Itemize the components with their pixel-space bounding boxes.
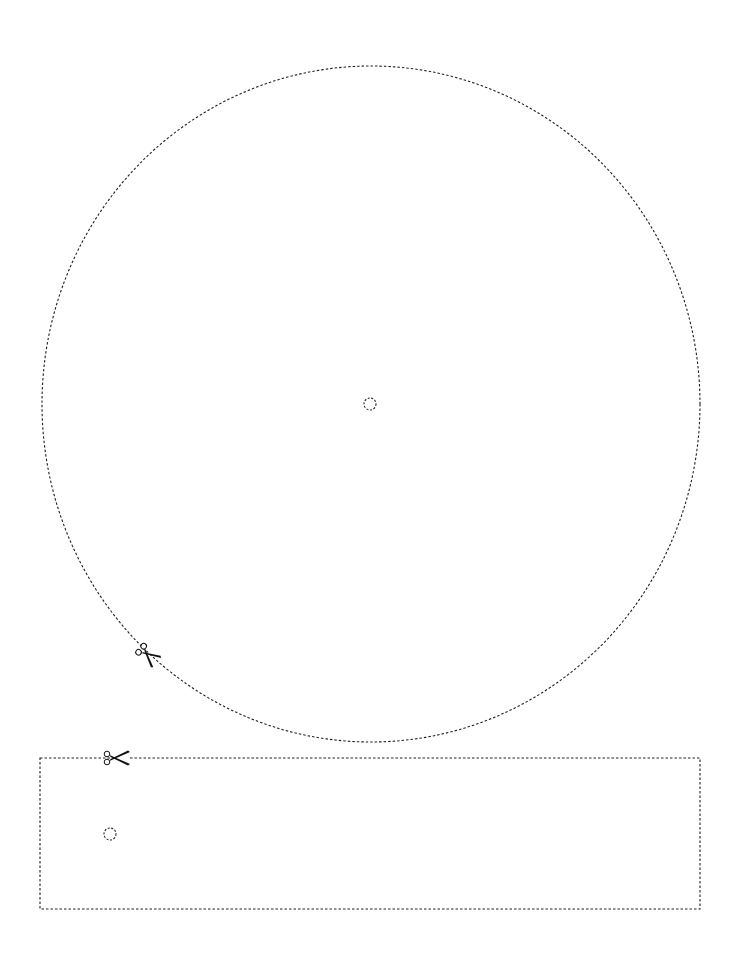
strip-cut-line	[40, 758, 700, 909]
disc-cut-line	[42, 66, 700, 742]
disc-center-hole	[364, 398, 376, 410]
cut-template-canvas	[0, 0, 741, 960]
scissors-icon	[134, 642, 162, 669]
strip-hole	[104, 828, 116, 840]
